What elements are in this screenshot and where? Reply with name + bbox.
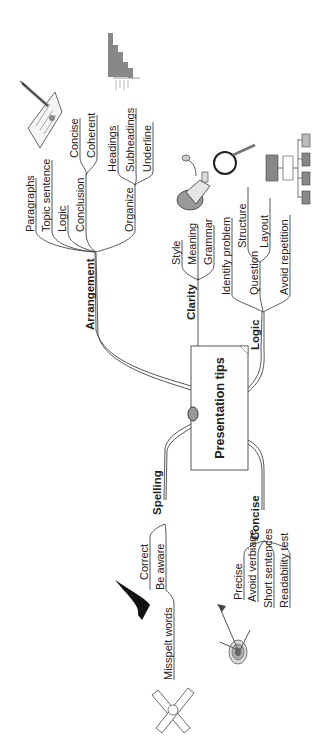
attachment-icon xyxy=(188,407,198,421)
item-correct: Correct xyxy=(138,544,150,580)
branch-label-clarity: Clarity xyxy=(185,284,197,320)
crossed-bandage-icon xyxy=(152,688,194,733)
branch-clarity: Clarity Style Meaning Grammar xyxy=(170,218,214,346)
item-layout: Layout xyxy=(258,215,270,248)
item-headings: Headings xyxy=(106,125,118,172)
item-short-sentences: Short sentences xyxy=(262,528,274,608)
item-readability-test: Readability test xyxy=(278,533,290,608)
item-be-aware: Be aware xyxy=(154,544,166,590)
item-identify-problem: Identify problem xyxy=(220,217,232,295)
item-conclusion: Conclusion xyxy=(74,178,86,232)
checkmark-icon xyxy=(115,580,150,620)
item-underline: Underline xyxy=(141,125,153,172)
magnifier-icon xyxy=(214,145,255,174)
bar-chart-icon xyxy=(108,33,140,90)
item-misspelt-words: Misspelt words xyxy=(162,607,174,680)
target-arrows-icon xyxy=(217,604,250,664)
branch-label-spelling: Spelling xyxy=(151,470,163,515)
item-organize: Organize xyxy=(123,187,135,232)
item-precise: Precise xyxy=(232,563,244,600)
item-topic-sentence: Topic sentence xyxy=(40,159,52,232)
item-paragraphs: Paragraphs xyxy=(24,175,36,232)
item-grammar: Grammar xyxy=(202,218,214,265)
item-avoid-verbiage: Avoid verbiage xyxy=(246,529,258,602)
item-coherent: Coherent xyxy=(85,113,97,158)
branch-label-logic: Logic xyxy=(249,319,261,350)
item-question: Question xyxy=(248,251,260,295)
item-subheadings: Subheadings xyxy=(124,107,136,172)
item-concise: Concise xyxy=(68,118,80,158)
branch-arrangement: Arrangement Paragraphs Topic sentence Lo… xyxy=(24,107,191,390)
megaphone-icon xyxy=(177,155,210,210)
branch-label-arrangement: Arrangement xyxy=(84,258,96,330)
mind-map: Presentation tips Arrangement Paragraphs… xyxy=(0,0,324,739)
item-style: Style xyxy=(170,241,182,265)
center-node[interactable]: Presentation tips xyxy=(191,346,248,470)
branch-spelling: Spelling Correct Be aware Misspelt words xyxy=(138,424,191,680)
item-avoid-repetition: Avoid repetition xyxy=(278,219,290,295)
item-structure: Structure xyxy=(236,203,248,248)
document-pen-icon xyxy=(20,81,62,148)
center-label: Presentation tips xyxy=(213,357,227,458)
item-logic: Logic xyxy=(56,205,68,232)
item-meaning: Meaning xyxy=(186,223,198,265)
org-chart-icon xyxy=(266,134,310,204)
